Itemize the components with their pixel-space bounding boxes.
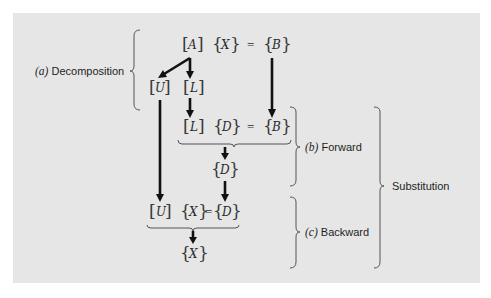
matrix-a: A	[187, 38, 197, 52]
svg-text:]: ]	[198, 77, 205, 97]
svg-text:]: ]	[197, 34, 204, 54]
equals-sign-backward: =	[205, 204, 212, 219]
lu-decomposition-diagram: [ A ] { X } = { B } [ U ] [ L ] [ L ] { …	[0, 0, 491, 298]
label-backward: (c) Backward	[305, 226, 369, 239]
svg-text:}: }	[198, 243, 209, 263]
svg-text:]: ]	[198, 116, 205, 136]
svg-text:}: }	[281, 116, 292, 136]
vector-b: B	[271, 38, 281, 52]
svg-text:[: [	[149, 201, 156, 221]
svg-text:[: [	[183, 77, 190, 97]
vector-x-backward: X	[188, 205, 198, 219]
svg-text:}: }	[231, 116, 242, 136]
svg-text:[: [	[183, 116, 190, 136]
svg-text:}: }	[229, 159, 240, 179]
svg-text:]: ]	[164, 77, 171, 97]
figure-panel	[13, 13, 480, 283]
vector-b-forward: B	[271, 120, 281, 134]
equals-sign-forward: =	[247, 119, 254, 134]
vector-x: X	[220, 38, 230, 52]
svg-text:}: }	[231, 201, 242, 221]
svg-text:}: }	[281, 34, 292, 54]
label-decomposition: (a) Decomposition	[35, 65, 124, 78]
vector-x-result: X	[188, 247, 198, 261]
equals-sign: =	[247, 37, 254, 52]
svg-text:]: ]	[165, 201, 172, 221]
label-forward: (b) Forward	[305, 141, 362, 154]
matrix-l: L	[189, 81, 198, 95]
svg-text:}: }	[230, 34, 241, 54]
matrix-l-forward: L	[189, 120, 198, 134]
label-substitution: Substitution	[392, 180, 449, 192]
